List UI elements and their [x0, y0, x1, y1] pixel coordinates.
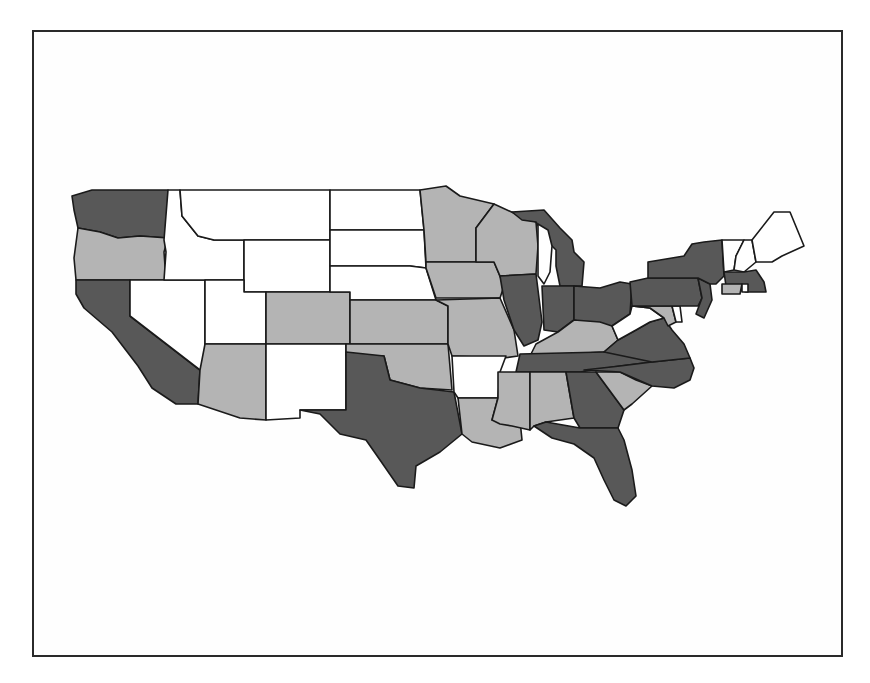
us-choropleth-map: WashingtonOregonCaliforniaNevadaIdahoMon…: [0, 0, 870, 683]
state-az: Arizona: [198, 344, 266, 420]
state-ny: New York: [648, 240, 724, 284]
state-ks: Kansas: [350, 300, 448, 344]
state-nd: North Dakota: [330, 190, 424, 230]
state-pa: Pennsylvania: [630, 278, 702, 306]
state-ia: Iowa: [426, 262, 504, 298]
state-fl: Florida: [534, 422, 636, 506]
state-ct: Connecticut: [722, 284, 742, 294]
state-ms: Mississippi: [492, 372, 530, 430]
state-sd: South Dakota: [330, 230, 426, 268]
state-wy: Wyoming: [244, 240, 330, 292]
state-mt: Montana: [180, 190, 330, 240]
state-ri: Rhode Island: [742, 284, 748, 292]
state-me: Maine: [752, 212, 804, 262]
state-nm: New Mexico: [266, 344, 346, 420]
state-co: Colorado: [266, 292, 350, 344]
